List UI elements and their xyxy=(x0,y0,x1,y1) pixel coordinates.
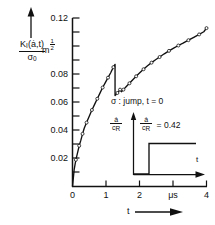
x-axis-arrow-icon xyxy=(135,206,185,218)
inset-value-text: = 0.42 xyxy=(155,120,181,130)
y-axis-unit: m12 xyxy=(42,38,55,55)
inset-step-curve xyxy=(134,144,197,175)
inset-value-label: ȧ cR = 0.42 xyxy=(140,116,180,133)
data-point-marker xyxy=(90,108,93,111)
figure-container: KI(ȧ,t) σ0 m12 0.12 0.08 0.06 0.04 0.02 … xyxy=(0,0,214,225)
data-point-marker xyxy=(142,68,145,71)
data-point-marker xyxy=(96,97,99,100)
inset-y-den: cR xyxy=(110,124,122,133)
y-tick-label-0.04: 0.04 xyxy=(38,125,68,135)
y-unit-exponent: 12 xyxy=(50,38,55,51)
data-point-marker xyxy=(112,66,115,69)
inset-y-axis-arrow-icon xyxy=(131,112,136,175)
data-point-marker xyxy=(74,158,77,161)
data-curve xyxy=(73,28,207,186)
inset-value-den: cR xyxy=(140,124,152,133)
x-axis-ticks xyxy=(106,181,207,187)
data-point-marker xyxy=(167,49,170,52)
data-point-marker xyxy=(187,39,190,42)
data-point-markers xyxy=(74,27,208,162)
y-tick-label-0.06: 0.06 xyxy=(38,97,68,107)
annotation-jump-condition: σ : jump, t = 0 xyxy=(111,96,163,106)
inset-y-axis-label: ȧ cR xyxy=(110,116,122,134)
data-point-marker xyxy=(135,75,138,78)
x-tick-label-unit-us: μs xyxy=(164,190,182,200)
data-point-marker xyxy=(101,86,104,89)
y-label-sub-0: 0 xyxy=(33,55,37,62)
x-tick-label-4: 4 xyxy=(198,190,215,200)
y-axis-arrow-icon xyxy=(28,7,35,38)
inset-y-num: ȧ xyxy=(110,116,122,124)
data-point-marker xyxy=(198,33,201,36)
x-tick-label-0: 0 xyxy=(64,190,82,200)
inset-value-num: ȧ xyxy=(140,116,152,124)
data-point-marker xyxy=(205,27,208,30)
x-tick-label-2: 2 xyxy=(131,190,149,200)
x-axis-label: t xyxy=(127,206,130,216)
data-point-marker xyxy=(81,132,84,135)
data-point-marker xyxy=(128,82,131,85)
inset-y-fraction: ȧ cR xyxy=(110,116,122,133)
inset-x-axis-label: t xyxy=(196,155,198,164)
y-tick-label-0.02: 0.02 xyxy=(38,153,68,163)
data-point-marker xyxy=(158,56,161,59)
data-point-marker xyxy=(85,121,88,124)
data-point-marker xyxy=(177,44,180,47)
data-point-marker xyxy=(150,61,153,64)
data-point-marker xyxy=(78,144,81,147)
data-point-marker xyxy=(119,88,122,91)
y-tick-label-0.08: 0.08 xyxy=(38,69,68,79)
data-point-marker xyxy=(122,88,125,91)
y-tick-label-0.12: 0.12 xyxy=(38,13,68,23)
x-tick-label-1: 1 xyxy=(97,190,115,200)
data-point-marker xyxy=(116,91,119,94)
data-point-marker xyxy=(107,76,110,79)
inset-value-fraction: ȧ cR xyxy=(140,116,152,133)
